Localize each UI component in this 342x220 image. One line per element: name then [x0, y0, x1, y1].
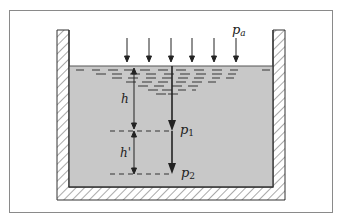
label-h: h: [121, 92, 129, 106]
diagram-canvas: pa h h' p1 p2: [0, 0, 342, 220]
label-h-prime: h': [120, 146, 131, 160]
